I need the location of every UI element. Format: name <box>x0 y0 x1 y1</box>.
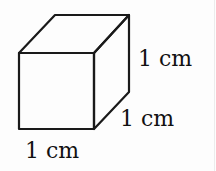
width-label: 1 cm <box>25 140 79 162</box>
height-label: 1 cm <box>138 48 192 70</box>
cube-front-face <box>19 53 94 129</box>
depth-label: 1 cm <box>120 108 174 130</box>
